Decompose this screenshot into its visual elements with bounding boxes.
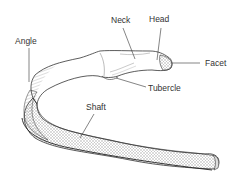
rib-head-facet — [160, 55, 172, 70]
rib-diagram: Neck Head Angle Facet Tubercle Shaft — [0, 0, 242, 185]
rib-neck-region — [31, 51, 172, 104]
rib-illustration — [0, 0, 242, 185]
label-facet: Facet — [205, 59, 226, 68]
label-angle: Angle — [15, 37, 37, 46]
rib-bone — [22, 51, 219, 170]
tubercle-leader — [116, 78, 146, 87]
rib-shaft — [24, 98, 219, 169]
label-head: Head — [149, 15, 169, 24]
label-tubercle: Tubercle — [148, 84, 181, 93]
label-neck: Neck — [111, 16, 130, 25]
label-shaft: Shaft — [86, 103, 106, 112]
shaft-leader — [80, 114, 94, 138]
